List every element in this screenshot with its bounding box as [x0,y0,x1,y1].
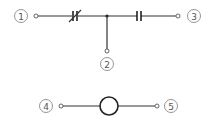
top-circuit: 1 3 2 [15,10,201,71]
bottom-circuit: 4 5 [40,97,178,115]
svg-text:5: 5 [168,102,174,112]
terminal-5[interactable] [155,104,159,108]
circuit-diagram: 1 3 2 4 5 [0,0,206,122]
node-label-2: 2 [101,58,114,71]
terminal-3[interactable] [176,14,180,18]
node-label-3: 3 [188,10,201,23]
svg-text:2: 2 [104,60,110,70]
svg-text:1: 1 [18,12,24,22]
capacitor-icon [137,11,141,21]
circle-element-icon [100,97,118,115]
terminal-4[interactable] [59,104,63,108]
node-label-4: 4 [40,100,53,113]
svg-text:4: 4 [43,102,49,112]
terminal-2[interactable] [105,49,109,53]
node-label-1: 1 [15,10,28,23]
node-label-5: 5 [165,100,178,113]
svg-text:3: 3 [191,12,197,22]
terminal-1[interactable] [34,14,38,18]
